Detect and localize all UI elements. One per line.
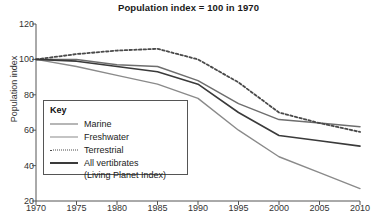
legend-title: Key — [50, 105, 187, 115]
legend-swatch-freshwater — [50, 132, 78, 142]
legend-swatch-marine — [50, 119, 78, 129]
legend-label: Terrestrial — [84, 145, 124, 155]
legend-subnote: (Living Planet Index) — [84, 169, 187, 181]
chart-figure: Population index = 100 in 1970 Populatio… — [0, 0, 377, 223]
legend-entries: MarineFreshwaterTerrestrialAll vertibrat… — [50, 117, 187, 169]
legend-label: Freshwater — [84, 132, 129, 142]
legend-label: All vertibrates — [84, 158, 139, 168]
legend-label: Marine — [84, 119, 112, 129]
legend-row-marine: Marine — [50, 117, 187, 130]
legend-swatch-all-vertibrates — [50, 158, 78, 168]
legend-row-all-vertibrates: All vertibrates — [50, 156, 187, 169]
legend-swatch-terrestrial — [50, 145, 78, 155]
legend-row-terrestrial: Terrestrial — [50, 143, 187, 156]
chart-legend: Key MarineFreshwaterTerrestrialAll verti… — [43, 100, 188, 175]
legend-row-freshwater: Freshwater — [50, 130, 187, 143]
